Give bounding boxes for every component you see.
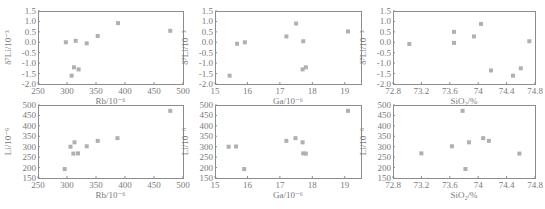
y-tick-label: 450 bbox=[378, 110, 392, 120]
x-tick-label: 73.2 bbox=[414, 180, 430, 190]
y-tick-label: 200 bbox=[200, 163, 214, 173]
data-point bbox=[77, 67, 81, 71]
scatter-figure: 250300350400450500-2.0-1.5-1.0-0.50.00.5… bbox=[0, 0, 545, 209]
x-axis-label: SiO₂/% bbox=[450, 96, 478, 106]
y-tick-label: 0.5 bbox=[202, 27, 214, 37]
y-tick-label: 400 bbox=[378, 121, 392, 131]
x-tick-label: 18 bbox=[308, 180, 318, 190]
data-point bbox=[70, 74, 74, 78]
data-point bbox=[301, 39, 305, 43]
y-axis-label: Li/10⁻⁶ bbox=[358, 128, 368, 155]
data-point bbox=[461, 109, 465, 113]
data-point bbox=[242, 167, 246, 171]
y-tick-label: 250 bbox=[378, 152, 392, 162]
x-tick-label: 17 bbox=[275, 86, 285, 96]
x-axis-label: Rb/10⁻⁶ bbox=[96, 96, 126, 106]
data-point bbox=[519, 66, 523, 70]
y-axis-label: δ⁷Li/10⁻³ bbox=[358, 30, 368, 65]
y-tick-label: 500 bbox=[200, 100, 214, 110]
y-tick-label: -0.5 bbox=[199, 48, 214, 58]
y-tick-label: 1.5 bbox=[202, 6, 214, 16]
data-point bbox=[304, 152, 308, 156]
y-tick-label: -1.5 bbox=[22, 69, 37, 79]
x-tick-label: 74 bbox=[474, 180, 484, 190]
x-tick-label: 73.6 bbox=[442, 86, 458, 96]
x-tick-label: 350 bbox=[89, 180, 103, 190]
x-tick-label: 18 bbox=[308, 86, 318, 96]
data-point bbox=[72, 65, 76, 69]
y-tick-label: -0.5 bbox=[377, 48, 392, 58]
data-point bbox=[511, 74, 515, 78]
data-point bbox=[450, 144, 454, 148]
y-tick-label: 0.5 bbox=[25, 27, 37, 37]
x-tick-label: 74.4 bbox=[499, 86, 515, 96]
data-point bbox=[467, 140, 471, 144]
x-tick-label: 17 bbox=[275, 180, 285, 190]
x-tick-label: 300 bbox=[60, 86, 74, 96]
data-point bbox=[228, 74, 232, 78]
y-tick-label: 1.0 bbox=[202, 16, 214, 26]
y-tick-label: -1.5 bbox=[199, 69, 214, 79]
y-axis-label: Li/10⁻⁶ bbox=[180, 128, 190, 155]
data-point bbox=[293, 136, 297, 140]
x-tick-label: 73.2 bbox=[414, 86, 430, 96]
y-tick-label: 350 bbox=[200, 131, 214, 141]
data-point bbox=[346, 109, 350, 113]
y-tick-label: 1.5 bbox=[25, 6, 37, 16]
y-tick-label: -2.0 bbox=[22, 79, 37, 89]
y-tick-label: 150 bbox=[378, 173, 392, 183]
data-point bbox=[284, 139, 288, 143]
x-tick-label: 74.8 bbox=[527, 180, 543, 190]
x-tick-label: 400 bbox=[118, 86, 132, 96]
y-tick-label: 450 bbox=[200, 110, 214, 120]
y-tick-label: 500 bbox=[378, 100, 392, 110]
data-point bbox=[419, 151, 423, 155]
y-tick-label: 300 bbox=[23, 142, 37, 152]
data-point bbox=[472, 34, 476, 38]
data-point bbox=[481, 136, 485, 140]
y-tick-label: 1.0 bbox=[25, 16, 37, 26]
data-point bbox=[227, 145, 231, 149]
y-tick-label: 350 bbox=[378, 131, 392, 141]
plot-frame bbox=[216, 106, 362, 179]
y-axis-label: Li/10⁻⁶ bbox=[3, 128, 13, 155]
y-tick-label: 450 bbox=[23, 110, 37, 120]
x-tick-label: 500 bbox=[176, 180, 190, 190]
x-axis-label: SiO₂/% bbox=[450, 190, 478, 200]
x-tick-label: 400 bbox=[118, 180, 132, 190]
data-point bbox=[294, 22, 298, 26]
y-tick-label: -2.0 bbox=[199, 79, 214, 89]
data-point bbox=[452, 41, 456, 45]
y-tick-label: 250 bbox=[23, 152, 37, 162]
x-tick-label: 350 bbox=[89, 86, 103, 96]
data-point bbox=[487, 139, 491, 143]
data-point bbox=[168, 29, 172, 33]
data-point bbox=[63, 167, 67, 171]
y-tick-label: 300 bbox=[200, 142, 214, 152]
x-axis-label: Rb/10⁻⁶ bbox=[96, 190, 126, 200]
data-point bbox=[68, 145, 72, 149]
x-axis-label: Ga/10⁻⁶ bbox=[273, 190, 303, 200]
x-tick-label: 500 bbox=[176, 86, 190, 96]
plot-frame bbox=[216, 12, 362, 85]
x-tick-label: 19 bbox=[340, 180, 350, 190]
y-tick-label: 0.5 bbox=[380, 27, 392, 37]
data-point bbox=[452, 30, 456, 34]
y-tick-label: 400 bbox=[200, 121, 214, 131]
plot-frame bbox=[39, 106, 184, 179]
data-point bbox=[463, 167, 467, 171]
data-point bbox=[517, 152, 521, 156]
y-tick-label: 200 bbox=[378, 163, 392, 173]
x-tick-label: 450 bbox=[147, 180, 161, 190]
y-tick-label: 1.0 bbox=[380, 16, 392, 26]
panel-li-ga: 1516171819150200250300350400450500Ga/10⁻… bbox=[180, 100, 362, 200]
x-tick-label: 300 bbox=[60, 180, 74, 190]
data-point bbox=[489, 68, 493, 72]
data-point bbox=[73, 140, 77, 144]
y-tick-label: 350 bbox=[23, 131, 37, 141]
panel-li-rb: 2503003504004505001502002503003504004505… bbox=[3, 100, 190, 200]
x-tick-label: 16 bbox=[243, 86, 253, 96]
data-point bbox=[96, 34, 100, 38]
y-tick-label: -1.0 bbox=[22, 58, 37, 68]
data-point bbox=[116, 21, 120, 25]
